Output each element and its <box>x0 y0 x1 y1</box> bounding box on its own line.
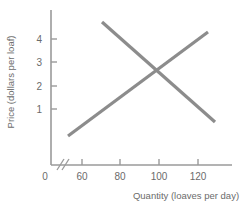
y-tick-label-2: 2 <box>36 81 42 92</box>
y-tick-label-4: 4 <box>36 34 42 45</box>
supply-demand-chart: 60 80 100 120 0 1 2 3 4 Quantity (loaves… <box>0 0 245 209</box>
chart-canvas: 60 80 100 120 0 1 2 3 4 Quantity (loaves… <box>0 0 245 209</box>
x-axis-title: Quantity (loaves per day) <box>133 190 239 201</box>
y-tick-label-3: 3 <box>36 57 42 68</box>
y-tick-label-1: 1 <box>36 104 42 115</box>
origin-label: 0 <box>42 171 48 182</box>
x-tick-label-120: 120 <box>190 171 207 182</box>
x-tick-label-100: 100 <box>151 171 168 182</box>
x-tick-label-60: 60 <box>76 171 88 182</box>
y-axis-title: Price (dollars per loaf) <box>5 36 16 129</box>
x-tick-label-80: 80 <box>114 171 126 182</box>
